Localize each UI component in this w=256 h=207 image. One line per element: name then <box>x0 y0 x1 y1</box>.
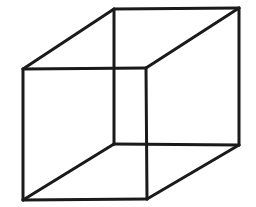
cube-edge-back_br-back_bl <box>114 144 239 145</box>
cube-edge-front_br-front_bl <box>23 199 147 200</box>
cube-edge-front_br-back_br <box>147 145 239 199</box>
cube-edge-front_tl-front_tr <box>23 68 146 69</box>
cube-edge-front_tr-back_tr <box>146 8 239 68</box>
cube-edge-front_tr-front_br <box>146 68 147 199</box>
cube-edge-front_tl-back_tl <box>23 9 114 69</box>
cube-edge-back_tl-back_tr <box>114 8 239 9</box>
necker-cube-diagram <box>0 0 256 207</box>
cube-wireframe <box>0 0 256 207</box>
cube-edge-front_bl-back_bl <box>23 144 114 200</box>
